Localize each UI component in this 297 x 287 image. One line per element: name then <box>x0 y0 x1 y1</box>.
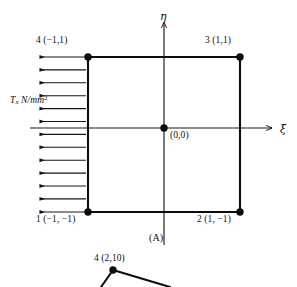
node-dot-3 <box>236 53 243 60</box>
node-dot-origin <box>160 124 167 131</box>
node-label-1-bottom-left: 1 (−1, −1) <box>36 215 75 225</box>
node-label-origin: (0,0) <box>170 131 189 141</box>
node-dot-1 <box>84 208 91 215</box>
axis-label-xi: ξ <box>280 124 286 135</box>
traction-exponent: 2 <box>44 94 47 101</box>
node-label-2-bottom-right: 2 (1, −1) <box>197 215 231 225</box>
node-label-4-top-left: 4 (−1,1) <box>36 36 68 46</box>
traction-load-label: Tx N/mm2 <box>10 95 48 106</box>
node-dot-2 <box>236 208 243 215</box>
axis-label-eta: η <box>160 11 167 22</box>
figure-container: 4 (−1,1) 3 (1,1) 1 (−1, −1) 2 (1, −1) (0… <box>0 0 297 287</box>
lower-figure-lines <box>101 266 170 287</box>
traction-arrow-group <box>40 57 86 212</box>
traction-units: N/mm <box>21 95 44 105</box>
node-label-4-lower-figure: 4 (2,10) <box>94 254 125 264</box>
node-dot-4-lower <box>109 266 116 273</box>
node-dot-4 <box>84 53 91 60</box>
node-label-3-top-right: 3 (1,1) <box>205 36 231 46</box>
panel-label-a: (A) <box>149 233 163 243</box>
